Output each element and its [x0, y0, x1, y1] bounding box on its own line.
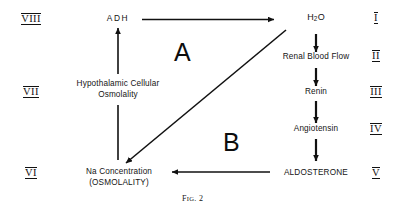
node-renin-label: Renin: [305, 87, 327, 96]
node-hypothalamic-osmolality-line1: Hypothalamic Cellular: [77, 79, 160, 88]
node-hypothalamic-osmolality: Hypothalamic Cellular Osmolality: [58, 79, 178, 100]
numeral-left-vii: VII: [8, 86, 54, 98]
node-angiotensin-label: Angiotensin: [294, 124, 338, 133]
node-angiotensin: Angiotensin: [276, 124, 356, 135]
node-adh-label: ADH: [107, 13, 129, 23]
node-water-label: H2O: [307, 12, 325, 22]
zone-label-a: A: [174, 40, 191, 65]
node-na-concentration-line2: (OSMOLALITY): [64, 178, 174, 189]
figure-caption-suffix: . 2: [194, 194, 203, 203]
node-aldosterone: ALDOSTERONE: [268, 168, 364, 179]
numeral-right-iv: IV: [356, 123, 396, 135]
numeral-right-v: V: [356, 167, 396, 179]
node-adh: ADH: [92, 13, 144, 24]
numeral-right-iii: III: [356, 86, 396, 98]
node-water: H2O: [290, 12, 342, 25]
zone-label-b: B: [223, 130, 240, 155]
figure-container: ADH H2O Renal Blood Flow Renin Angiotens…: [0, 0, 406, 212]
node-renin: Renin: [282, 87, 350, 98]
node-renal-blood-flow-label: Renal Blood Flow: [283, 52, 350, 61]
figure-caption: FIG. 2: [182, 194, 203, 203]
numeral-left-vi: VI: [8, 167, 54, 179]
numeral-left-viii: VIII: [8, 13, 54, 25]
numeral-right-ii: II: [356, 50, 396, 62]
node-na-concentration: Na Concentration (OSMOLALITY): [64, 167, 174, 188]
node-renal-blood-flow: Renal Blood Flow: [266, 52, 366, 63]
arrow-layer: [0, 0, 406, 212]
node-aldosterone-label: ALDOSTERONE: [284, 168, 348, 177]
numeral-right-i: I: [356, 12, 396, 24]
node-hypothalamic-osmolality-line2: Osmolality: [58, 90, 178, 101]
node-na-concentration-line1: Na Concentration: [86, 167, 152, 176]
